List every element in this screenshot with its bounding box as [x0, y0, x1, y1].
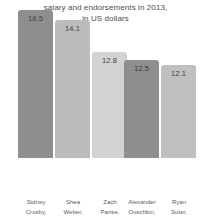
x-label-ryan-suter-line-1: Ryan [157, 198, 201, 208]
bar-shea-weber: 14.1 [55, 20, 90, 158]
x-label-ryan-suter-line-2: Suter, [157, 208, 201, 218]
bar-ryan-suter: 12.1 [161, 65, 196, 158]
bar-chart: salary and endorsements in 2013, in US d… [0, 0, 211, 219]
bar-value-sidney-crosby: 18.5 [18, 14, 53, 23]
bar-sidney-crosby: 18.5 [18, 10, 53, 158]
bar-value-shea-weber: 14.1 [55, 24, 90, 33]
bar-alexander-ovechkin: 12.5 [124, 60, 159, 158]
bar-value-alexander-ovechkin: 12.5 [124, 64, 159, 73]
bar-value-zach-parise: 12.8 [92, 56, 127, 65]
bar-zach-parise: 12.8 [92, 52, 127, 158]
x-axis-labels: Sidney Crosby, Shea Weber, Zach Parise, … [0, 190, 211, 219]
plot-area: 18.5 14.1 12.8 12.5 12.1 [0, 0, 211, 189]
x-label-ryan-suter: Ryan Suter, [157, 198, 201, 217]
bar-value-ryan-suter: 12.1 [161, 69, 196, 78]
